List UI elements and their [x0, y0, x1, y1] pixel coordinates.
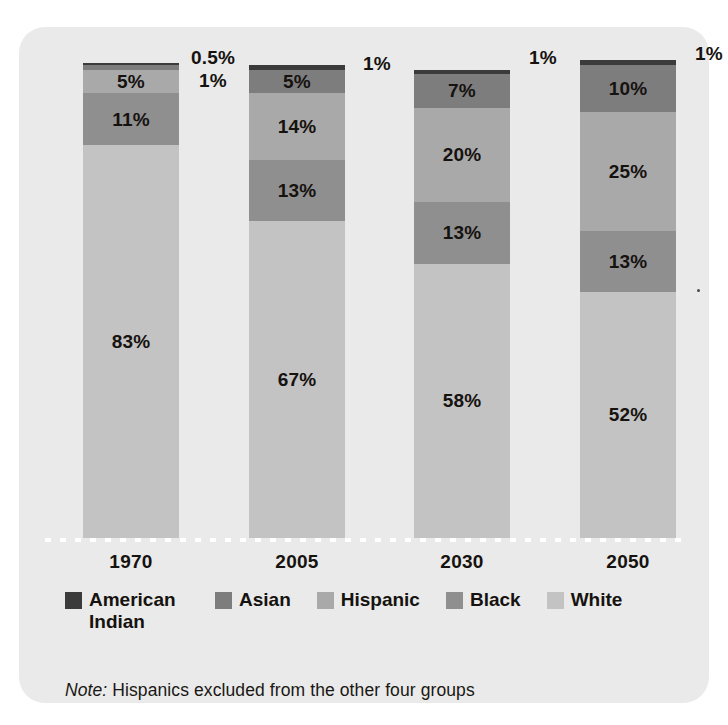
segment-value-label: 5%: [283, 72, 311, 91]
callout-1970-asian: 1%: [199, 70, 227, 92]
segment-value-label: 20%: [443, 145, 482, 164]
legend-label: Hispanic: [341, 589, 420, 611]
legend-swatch-icon: [446, 592, 463, 609]
segment-value-label: 7%: [448, 81, 476, 100]
note-emphasis: Note:: [65, 680, 107, 700]
x-axis-label-2050: 2050: [580, 551, 676, 573]
segment-value-label: 58%: [443, 391, 482, 410]
bar-segment-black[interactable]: 13%: [580, 231, 676, 292]
legend-item-hispanic[interactable]: Hispanic: [317, 589, 420, 611]
bar-segment-white[interactable]: 58%: [414, 264, 510, 538]
stacked-bar[interactable]: 10%25%13%52%: [580, 60, 676, 538]
stacked-bar[interactable]: 5%11%83%: [83, 63, 179, 538]
legend-label: Asian: [239, 589, 291, 611]
bar-segment-white[interactable]: 52%: [580, 292, 676, 538]
legend-label: Black: [470, 589, 521, 611]
segment-value-label: 13%: [443, 223, 482, 242]
callout-2050-american-indian: 1%: [695, 43, 723, 65]
bar-group-2030[interactable]: 7%20%13%58%: [414, 70, 510, 538]
bar-segment-hispanic[interactable]: 14%: [249, 93, 345, 159]
bar-segment-asian[interactable]: 10%: [580, 65, 676, 112]
bar-group-2050[interactable]: 10%25%13%52%: [580, 60, 676, 538]
bar-segment-hispanic[interactable]: 25%: [580, 112, 676, 230]
segment-value-label: 67%: [278, 370, 317, 389]
bar-segment-asian[interactable]: 5%: [249, 70, 345, 94]
x-axis-label-1970: 1970: [83, 551, 179, 573]
baseline-dotted-rule: [45, 538, 690, 542]
x-axis-label-2005: 2005: [249, 551, 345, 573]
callout-2030-american-indian: 1%: [529, 47, 557, 69]
bar-group-1970[interactable]: 5%11%83%: [83, 63, 179, 538]
legend-item-american-indian[interactable]: American Indian: [65, 589, 189, 634]
note-text: Hispanics excluded from the other four g…: [112, 680, 474, 700]
chart-card: 5%11%83%19705%14%13%67%20057%20%13%58%20…: [19, 27, 709, 703]
legend-swatch-icon: [65, 592, 82, 609]
segment-value-label: 10%: [609, 79, 648, 98]
legend-item-asian[interactable]: Asian: [215, 589, 291, 611]
segment-value-label: 14%: [278, 117, 317, 136]
bar-segment-black[interactable]: 13%: [414, 202, 510, 263]
segment-value-label: 52%: [609, 405, 648, 424]
bar-segment-asian[interactable]: 7%: [414, 74, 510, 107]
bar-segment-white[interactable]: 83%: [83, 145, 179, 538]
callout-2005-american-indian: 1%: [363, 53, 391, 75]
segment-value-label: 13%: [278, 181, 317, 200]
bar-segment-hispanic[interactable]: 20%: [414, 108, 510, 203]
legend-swatch-icon: [547, 592, 564, 609]
legend-item-white[interactable]: White: [547, 589, 623, 611]
segment-value-label: 11%: [112, 110, 150, 129]
chart-screenshot: 5%11%83%19705%14%13%67%20057%20%13%58%20…: [0, 0, 728, 725]
x-axis-label-2030: 2030: [414, 551, 510, 573]
segment-value-label: 25%: [609, 162, 648, 181]
legend-item-black[interactable]: Black: [446, 589, 521, 611]
bar-group-2005[interactable]: 5%14%13%67%: [249, 65, 345, 538]
chart-legend: American IndianAsianHispanicBlackWhite: [65, 589, 675, 634]
stacked-bar-plot-area: 5%11%83%19705%14%13%67%20057%20%13%58%20…: [19, 27, 709, 547]
bar-segment-hispanic[interactable]: 5%: [83, 70, 179, 94]
bar-segment-black[interactable]: 13%: [249, 160, 345, 221]
segment-value-label: 13%: [609, 252, 648, 271]
stacked-bar[interactable]: 7%20%13%58%: [414, 70, 510, 538]
bar-segment-black[interactable]: 11%: [83, 93, 179, 145]
print-speck: [697, 289, 700, 292]
legend-swatch-icon: [215, 592, 232, 609]
segment-value-label: 83%: [112, 332, 151, 351]
legend-label: American Indian: [89, 589, 189, 634]
bar-segment-white[interactable]: 67%: [249, 221, 345, 538]
stacked-bar[interactable]: 5%14%13%67%: [249, 65, 345, 538]
chart-note: Note: Hispanics excluded from the other …: [65, 680, 475, 701]
legend-swatch-icon: [317, 592, 334, 609]
segment-value-label: 5%: [117, 72, 145, 91]
legend-label: White: [571, 589, 623, 611]
legend-items: American IndianAsianHispanicBlackWhite: [65, 589, 675, 634]
callout-1970-american-indian: 0.5%: [191, 47, 235, 69]
